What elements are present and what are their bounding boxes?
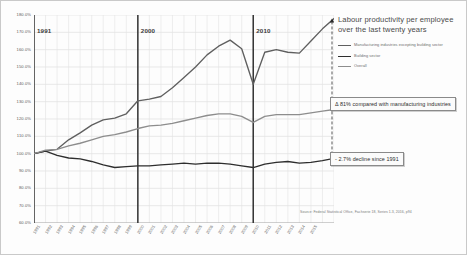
x-axis-tick-label: 2000: [136, 224, 145, 235]
y-axis-tick-label: 120.0%: [17, 117, 31, 121]
source-note: Source: Federal Statistical Office, Fach…: [300, 210, 412, 214]
chart-canvas: [34, 15, 334, 223]
x-axis-tick-label: 2015: [309, 224, 318, 235]
era-marker-label: 1991: [37, 27, 51, 34]
legend-rows: Manufacturing industries excepting build…: [338, 42, 464, 68]
legend-item: Manufacturing industries excepting build…: [338, 42, 464, 47]
x-axis-tick-label: 1998: [113, 224, 122, 235]
legend-swatch-icon: [338, 45, 351, 46]
x-axis-tick-label: 2010: [251, 224, 260, 235]
x-axis-tick-label: 2001: [147, 224, 156, 235]
era-marker-label: 2010: [256, 27, 270, 34]
legend-label: Overall: [354, 63, 367, 68]
legend-item: Overall: [338, 63, 464, 68]
x-axis-tick-label: 2013: [286, 224, 295, 235]
x-axis-tick-label: 2008: [228, 224, 237, 235]
y-axis-tick-label: 60.0%: [19, 221, 31, 225]
x-axis-tick-label: 1993: [55, 224, 64, 235]
era-marker-label: 2000: [141, 27, 155, 34]
y-axis-tick-label: 180.0%: [17, 13, 31, 17]
y-axis-tick-label: 70.0%: [19, 204, 31, 208]
y-axis-tick-label: 130.0%: [17, 100, 31, 104]
y-axis-tick-label: 160.0%: [17, 48, 31, 52]
legend-item: Building sector: [338, 53, 464, 58]
legend-swatch-icon: [338, 56, 351, 58]
x-axis-tick-label: 1991: [32, 224, 41, 235]
x-axis-tick-label: 2011: [263, 224, 272, 235]
x-axis-tick-label: 2002: [159, 224, 168, 235]
x-axis-tick-label: 2012: [274, 224, 283, 235]
y-axis-tick-label: 140.0%: [17, 82, 31, 86]
y-axis-tick-label: 90.0%: [19, 169, 31, 173]
x-axis-tick-label: 2009: [240, 224, 249, 235]
annotation-delta-manufacturing: Δ 81% compared with manufacturing indust…: [330, 97, 456, 111]
x-axis-tick-label: 1999: [124, 224, 133, 235]
legend-swatch-icon: [338, 66, 351, 67]
x-axis-tick-label: 2004: [182, 224, 191, 235]
x-axis-tick-label: 1992: [43, 224, 52, 235]
x-axis-tick-label: 2006: [205, 224, 214, 235]
y-axis-tick-label: 100.0%: [17, 152, 31, 156]
x-axis-label-group: 1991199219931994199519961997199819992000…: [34, 224, 334, 255]
y-axis-tick-label: 110.0%: [17, 134, 31, 138]
chart-frame: 180.0%170.0%160.0%150.0%140.0%130.0%120.…: [0, 0, 467, 255]
chart-title: Labour productivity per employee over th…: [338, 15, 464, 35]
x-axis-tick-label: 2003: [170, 224, 179, 235]
x-axis-tick-label: 1996: [90, 224, 99, 235]
x-axis-tick-label: 1994: [66, 224, 75, 235]
x-axis-tick-label: 1997: [101, 224, 110, 235]
y-axis-tick-label: 80.0%: [19, 186, 31, 190]
legend-label: Building sector: [354, 53, 380, 58]
plot-area: [34, 15, 334, 223]
annotation-building-decline: - 2.7% decline since 1991: [330, 152, 404, 166]
y-axis-tick-label: 150.0%: [17, 65, 31, 69]
x-axis-tick-label: 2007: [216, 224, 225, 235]
y-axis-label-group: 180.0%170.0%160.0%150.0%140.0%130.0%120.…: [1, 15, 33, 223]
legend-label: Manufacturing industries excepting build…: [354, 42, 443, 47]
x-axis-tick-label: 2005: [193, 224, 202, 235]
x-axis-tick-label: 1995: [78, 224, 87, 235]
y-axis-tick-label: 170.0%: [17, 30, 31, 34]
x-axis-tick-label: 2014: [297, 224, 306, 235]
legend-block: Labour productivity per employee over th…: [338, 15, 464, 73]
